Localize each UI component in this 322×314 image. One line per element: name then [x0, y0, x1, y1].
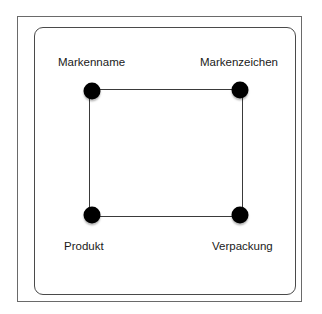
- edge-markenzeichen-verpackung: [242, 90, 243, 216]
- node-produkt: [84, 207, 101, 224]
- edge-markenname-markenzeichen: [92, 89, 242, 90]
- edge-verpackung-produkt: [92, 216, 242, 217]
- node-verpackung: [232, 207, 249, 224]
- label-produkt: Produkt: [64, 241, 104, 253]
- edge-produkt-markenname: [89, 90, 90, 216]
- label-markenname: Markenname: [58, 57, 125, 69]
- label-markenzeichen: Markenzeichen: [200, 57, 278, 69]
- node-markenname: [84, 83, 101, 100]
- node-markenzeichen: [232, 82, 249, 99]
- label-verpackung: Verpackung: [212, 241, 273, 253]
